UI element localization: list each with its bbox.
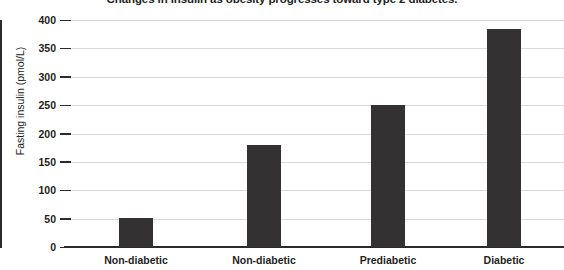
bar [247,145,281,247]
x-axis-tick-label: Non-diabetic [71,254,201,266]
gridline [64,20,564,21]
y-axis-tick [60,247,71,249]
y-axis-tick-label: 250 [16,99,56,111]
y-axis-tick-label: 400 [16,14,56,26]
y-axis-tick-label: 0 [16,241,56,253]
y-axis-tick [60,190,71,192]
y-axis-tick [60,48,71,50]
y-axis-tick-label: 50 [16,213,56,225]
y-axis-tick-label: 150 [16,156,56,168]
bar [119,218,153,248]
bar [487,29,521,247]
y-axis-tick [60,133,71,135]
y-axis-tick-label: 100 [16,184,56,196]
x-axis-tick-label: Diabetic [439,254,564,266]
y-axis-tick [60,161,71,163]
y-axis-tick-label: 300 [16,71,56,83]
y-axis-tick [60,105,71,107]
chart-title: Changes in insulin as obesity progresses… [0,0,564,5]
y-axis-tick [60,20,71,22]
y-axis-tick-label: 350 [16,42,56,54]
bar [371,105,405,247]
y-axis-line [0,20,2,248]
y-axis-tick [60,218,71,220]
plot-area [64,20,564,247]
x-axis-tick-label: Non-diabetic [199,254,329,266]
x-axis-tick-label: Prediabetic [323,254,453,266]
y-axis-tick [60,76,71,78]
y-axis-tick-label: 200 [16,128,56,140]
